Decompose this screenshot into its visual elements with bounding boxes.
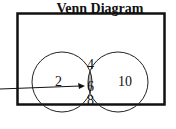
- pointer-arrow-line: [0, 86, 80, 89]
- left-circle: [32, 52, 92, 112]
- left-only-value: 2: [55, 75, 62, 89]
- intersection-bottom-value: 8: [87, 94, 94, 108]
- right-only-value: 10: [118, 75, 132, 89]
- diagram-title: Venn Diagram: [45, 2, 155, 16]
- pointer-arrowhead-icon: [78, 83, 85, 89]
- intersection-top-value: 4: [87, 58, 94, 72]
- intersection-middle-value: 6: [87, 80, 94, 94]
